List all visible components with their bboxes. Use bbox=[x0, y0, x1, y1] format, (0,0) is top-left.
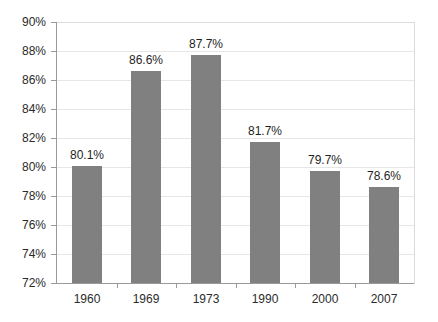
bar bbox=[72, 166, 102, 283]
bar bbox=[131, 71, 161, 283]
x-axis-tick bbox=[355, 283, 356, 288]
bar-value-label: 80.1% bbox=[57, 149, 117, 162]
y-axis-tick-label: 74% bbox=[0, 248, 46, 260]
bar bbox=[369, 187, 399, 283]
y-axis-tick-label: 82% bbox=[0, 132, 46, 144]
bar bbox=[310, 171, 340, 283]
bar-value-label: 87.7% bbox=[176, 38, 236, 51]
x-axis-category-label: 2000 bbox=[295, 292, 355, 306]
y-axis-tick-label: 84% bbox=[0, 103, 46, 115]
y-axis-tick-label: 80% bbox=[0, 161, 46, 173]
y-axis-tick-label: 88% bbox=[0, 45, 46, 57]
y-axis-tick-label: 86% bbox=[0, 74, 46, 86]
x-axis-line bbox=[56, 283, 414, 284]
x-axis-tick bbox=[295, 283, 296, 288]
y-axis-tick-label: 76% bbox=[0, 219, 46, 231]
y-axis-tick-label: 90% bbox=[0, 16, 46, 28]
x-axis-tick bbox=[176, 283, 177, 288]
bar bbox=[250, 142, 280, 283]
bar-value-label: 78.6% bbox=[354, 170, 414, 183]
bar-value-label: 86.6% bbox=[116, 54, 176, 67]
x-axis-category-label: 1960 bbox=[57, 292, 117, 306]
bar bbox=[191, 55, 221, 283]
bar-value-label: 79.7% bbox=[295, 154, 355, 167]
y-axis-tick-label: 78% bbox=[0, 190, 46, 202]
plot-right-border bbox=[414, 22, 415, 284]
x-axis-category-label: 1990 bbox=[235, 292, 295, 306]
y-axis-tick-label: 72% bbox=[0, 277, 46, 289]
x-axis-tick bbox=[236, 283, 237, 288]
x-axis-tick bbox=[117, 283, 118, 288]
bar-chart: 72%74%76%78%80%82%84%86%88%90% 80.1%86.6… bbox=[0, 0, 438, 322]
x-axis-category-label: 1973 bbox=[176, 292, 236, 306]
x-axis-category-label: 2007 bbox=[354, 292, 414, 306]
x-axis-category-label: 1969 bbox=[116, 292, 176, 306]
bar-value-label: 81.7% bbox=[235, 125, 295, 138]
